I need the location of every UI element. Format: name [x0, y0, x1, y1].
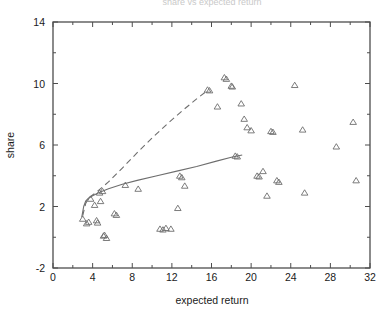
data-point-marker: [264, 193, 271, 198]
x-tick-label: 8: [129, 271, 135, 283]
data-point-markers: [79, 74, 359, 240]
x-tick-label: 20: [245, 271, 257, 283]
data-point-marker: [223, 76, 230, 81]
x-axis-title: expected return: [176, 294, 249, 306]
data-point-marker: [113, 212, 120, 217]
data-point-marker: [214, 104, 221, 109]
x-tick-labels: 048121620242832: [50, 271, 376, 283]
plot-frame: [53, 22, 370, 268]
data-point-marker: [181, 183, 188, 188]
data-point-marker: [244, 124, 251, 129]
cropped-title: share vs expected return: [162, 0, 261, 7]
scatter-plot: share vs expected return 048121620242832…: [0, 0, 391, 318]
curve-upper-dashed-fit: [83, 90, 208, 215]
data-point-marker: [260, 168, 267, 173]
data-point-marker: [135, 186, 142, 191]
y-tick-labels: -2261014: [33, 16, 45, 274]
data-point-marker: [175, 205, 182, 210]
y-tick-label: 14: [33, 16, 45, 28]
data-point-marker: [350, 119, 357, 124]
data-point-marker: [79, 216, 86, 221]
x-tick-label: 32: [364, 271, 376, 283]
data-point-marker: [168, 226, 175, 231]
y-tick-label: 2: [39, 201, 45, 213]
x-tick-label: 16: [206, 271, 218, 283]
x-tick-label: 28: [325, 271, 337, 283]
data-point-marker: [97, 198, 104, 203]
y-tick-label: -2: [36, 262, 45, 274]
data-point-marker: [299, 127, 306, 132]
x-tick-label: 24: [285, 271, 297, 283]
data-point-marker: [241, 116, 248, 121]
data-point-marker: [91, 202, 98, 207]
y-axis-title: share: [4, 132, 16, 158]
svg-text:share vs expected return: share vs expected return: [162, 0, 261, 7]
data-point-marker: [276, 179, 283, 184]
data-point-marker: [238, 101, 245, 106]
y-tick-label: 6: [39, 139, 45, 151]
data-point-marker: [353, 177, 360, 182]
x-axis-ticks: [53, 22, 370, 268]
y-tick-label: 10: [33, 78, 45, 90]
data-point-marker: [301, 190, 308, 195]
data-point-marker: [291, 82, 298, 87]
chart-figure: share vs expected return 048121620242832…: [0, 0, 391, 318]
y-axis-ticks: [53, 22, 370, 268]
x-tick-label: 0: [50, 271, 56, 283]
x-tick-label: 4: [90, 271, 96, 283]
x-tick-label: 12: [166, 271, 178, 283]
data-point-marker: [333, 144, 340, 149]
data-point-marker: [179, 174, 186, 179]
curve-lower-solid-fit: [82, 155, 242, 217]
